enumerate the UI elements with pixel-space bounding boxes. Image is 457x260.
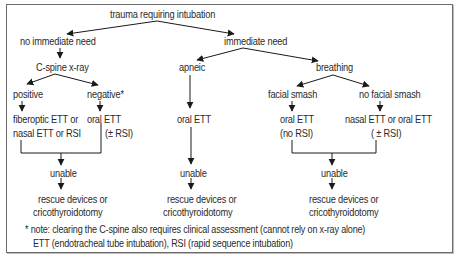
bracket-right	[292, 140, 376, 153]
node-unable-apneic: unable	[180, 167, 207, 180]
footnote-cspine: * note: clearing the C-spine also requir…	[25, 222, 365, 236]
arrow-root-to-no-immediate	[67, 21, 157, 34]
node-rescue-apneic-line1: rescue devices or	[167, 193, 236, 206]
node-rescue-left-line1: rescue devices or	[38, 193, 107, 206]
node-rescue-left-line2: cricothyroidotomy	[33, 206, 102, 219]
node-root: trauma requiring intubation	[110, 8, 215, 21]
arrow-to-apneic	[197, 48, 243, 60]
node-unable-left: unable	[50, 167, 77, 180]
arrow-to-negative	[55, 74, 98, 85]
node-facial-smash: facial smash	[268, 88, 317, 101]
arrow-to-facial-smash	[297, 75, 333, 86]
node-immediate-need: immediate need	[224, 35, 287, 48]
node-positive: positive	[13, 88, 43, 101]
node-oral-ett-left: oral ETT	[87, 113, 121, 126]
node-rsi-optional-left: (± RSI)	[105, 127, 133, 140]
arrow-to-no-facial-smash	[333, 75, 369, 86]
node-fiberoptic-line1: fiberoptic ETT or	[13, 113, 78, 126]
node-no-rsi: (no RSI)	[280, 127, 313, 140]
node-apneic: apneic	[179, 61, 205, 74]
node-rescue-apneic-line2: cricothyroidotomy	[163, 206, 232, 219]
node-unable-right: unable	[321, 167, 348, 180]
node-rescue-right-line1: rescue devices or	[309, 193, 378, 206]
node-fiberoptic-line2: nasal ETT or RSI	[13, 127, 81, 140]
arrow-to-positive	[27, 74, 55, 84]
footnote-abbreviations: ETT (endotracheal tube intubation), RSI …	[33, 236, 293, 250]
arrow-root-to-immediate	[157, 21, 234, 34]
node-oral-ett-facial: oral ETT	[280, 113, 314, 126]
node-negative: negative*	[87, 88, 124, 101]
node-nasal-or-oral-ett: nasal ETT or oral ETT	[345, 113, 432, 126]
node-cspine-xray: C-spine x-ray	[36, 61, 89, 74]
node-rsi-optional-right: ( ± RSI)	[371, 127, 401, 140]
arrow-to-breathing	[243, 48, 318, 61]
node-oral-ett-apneic: oral ETT	[177, 113, 211, 126]
node-breathing: breathing	[316, 61, 353, 74]
node-no-immediate-need: no immediate need	[20, 35, 96, 48]
node-rescue-right-line2: cricothyroidotomy	[309, 206, 378, 219]
node-no-facial-smash: no facial smash	[359, 88, 421, 101]
